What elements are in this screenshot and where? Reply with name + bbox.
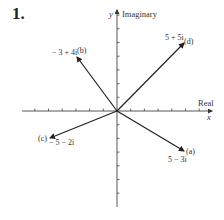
vector-d-expr: 5 + 5i: [165, 33, 185, 42]
vector-c-expr: − 5 − 2i: [49, 138, 75, 147]
vector-a-tag: (a): [186, 147, 195, 156]
real-axis-label: Real: [198, 98, 214, 108]
complex-plane-diagram: Real x y Imaginary (a) 5 − 3i − 3 + 4i (…: [0, 0, 224, 220]
real-axis-var: x: [206, 112, 211, 122]
vector-b-tag: (b): [77, 46, 87, 55]
vector-b-expr: − 3 + 4i: [52, 48, 78, 57]
vector-a-expr: 5 − 3i: [168, 155, 188, 164]
vector-c-tag: (c): [38, 134, 47, 143]
vector-b: [77, 57, 117, 111]
vector-d: [117, 43, 184, 111]
vector-c: [50, 111, 117, 138]
imag-axis-label: Imaginary: [122, 9, 158, 19]
vector-d-tag: (d): [184, 37, 194, 46]
vector-a: [117, 111, 184, 151]
imag-axis-var: y: [108, 9, 113, 19]
